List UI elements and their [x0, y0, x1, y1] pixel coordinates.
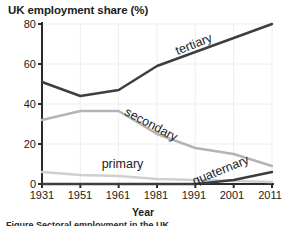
series-annotations: tertiarysecondaryprimaryquaternary: [102, 30, 252, 188]
series-label-primary: primary: [102, 157, 144, 171]
series-label-secondary: secondary: [122, 105, 180, 145]
chart-container: UK employment share (%) 80 60 40 20 0 19…: [0, 0, 286, 226]
figure-caption: Figure Sectoral employment in the UK: [6, 220, 280, 226]
series-label-quaternary: quaternary: [190, 152, 251, 188]
series-label-tertiary: tertiary: [174, 30, 215, 58]
plot-area: tertiarysecondaryprimaryquaternary: [0, 0, 286, 226]
